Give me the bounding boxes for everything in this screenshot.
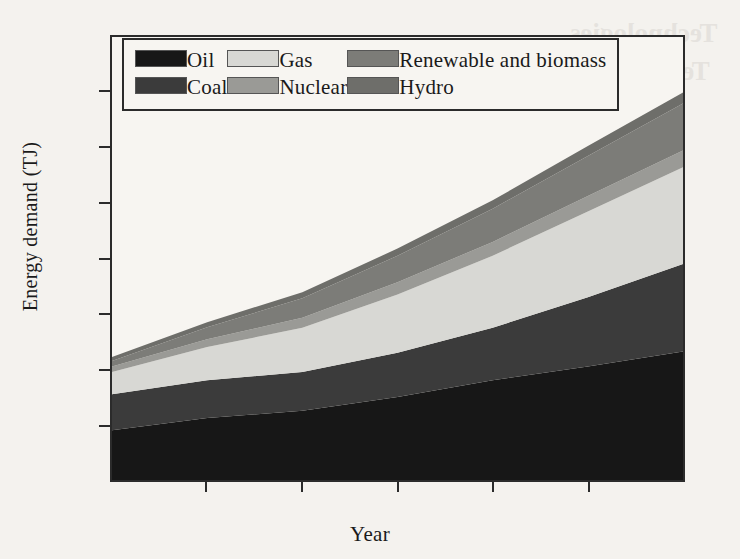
legend-label: Gas bbox=[279, 47, 347, 74]
x-axis-tick-mark bbox=[397, 482, 399, 492]
y-axis-title: Energy demand (TJ) bbox=[19, 17, 42, 437]
legend-label: Hydro bbox=[399, 74, 606, 101]
legend-label: Oil bbox=[187, 47, 227, 74]
x-axis-tick-mark bbox=[205, 482, 207, 492]
legend-swatch-cell bbox=[347, 47, 399, 74]
energy-demand-stacked-area-chart: Energy demand (TJ) Year OilGasRenewable … bbox=[0, 0, 740, 559]
legend-swatch-icon bbox=[135, 50, 187, 67]
y-axis-tick-mark bbox=[99, 90, 110, 92]
x-axis-tick-mark bbox=[588, 482, 590, 492]
y-axis-tick-mark bbox=[99, 258, 110, 260]
legend-swatch-cell bbox=[347, 74, 399, 101]
legend-label: Coal bbox=[187, 74, 227, 101]
legend-swatch-icon bbox=[227, 50, 279, 67]
legend-swatch-icon bbox=[135, 77, 187, 94]
chart-legend: OilGasRenewable and biomassCoalNuclearHy… bbox=[122, 38, 619, 111]
legend-swatch-icon bbox=[347, 50, 399, 67]
legend-swatch-cell bbox=[227, 47, 279, 74]
legend-swatch-cell bbox=[227, 74, 279, 101]
y-axis-tick-mark bbox=[99, 313, 110, 315]
y-axis-tick-mark bbox=[99, 425, 110, 427]
legend-row: CoalNuclearHydro bbox=[135, 74, 606, 101]
legend-swatch-cell bbox=[135, 47, 187, 74]
legend-swatch-cell bbox=[135, 74, 187, 101]
legend-swatch-icon bbox=[347, 77, 399, 94]
legend-row: OilGasRenewable and biomass bbox=[135, 47, 606, 74]
legend-label: Renewable and biomass bbox=[399, 47, 606, 74]
legend-swatch-icon bbox=[227, 77, 279, 94]
y-axis-tick-mark bbox=[99, 369, 110, 371]
legend-label: Nuclear bbox=[279, 74, 347, 101]
x-axis-title: Year bbox=[0, 522, 740, 547]
x-axis-tick-mark bbox=[492, 482, 494, 492]
legend-table: OilGasRenewable and biomassCoalNuclearHy… bbox=[135, 47, 606, 101]
x-axis-tick-mark bbox=[301, 482, 303, 492]
y-axis-tick-mark bbox=[99, 202, 110, 204]
y-axis-tick-mark bbox=[99, 146, 110, 148]
